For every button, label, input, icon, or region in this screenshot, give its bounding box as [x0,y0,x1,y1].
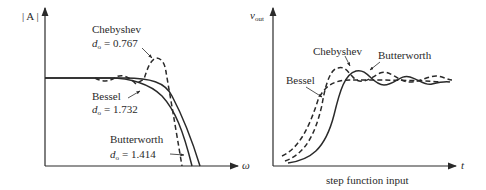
bessel-label: Bessel [286,74,315,86]
bessel-pointer [128,91,140,98]
magnitude-response-plot: | A | ω Chebyshev do= 0.767 Bessel do= 1… [22,8,250,171]
y-axis-label: | A | [22,10,39,22]
y-axis-label: vout [250,9,264,23]
bessel-label: Bessel [92,90,121,102]
chebyshev-label: Chebyshev [92,23,141,35]
bessel-param: do= 1.732 [92,103,138,117]
chebyshev-label: Chebyshev [313,45,362,57]
filter-response-diagram: | A | ω Chebyshev do= 0.767 Bessel do= 1… [0,0,486,190]
x-axis-label: t [461,159,465,171]
x-axis-label: ω [242,159,250,171]
chebyshev-pointer [142,48,152,58]
chebyshev-param: do= 0.767 [92,37,138,51]
butterworth-param: do= 1.414 [110,148,156,162]
step-response-plot: vout t Chebyshev Butterworth Bessel step… [250,8,465,186]
butterworth-label: Butterworth [110,133,164,145]
butterworth-pointer [170,154,184,155]
bessel-pointer [306,87,322,97]
butterworth-label: Butterworth [378,49,432,61]
step-caption: step function input [326,174,409,186]
butterworth-pointer [370,62,380,70]
chebyshev-pointer [345,56,350,66]
